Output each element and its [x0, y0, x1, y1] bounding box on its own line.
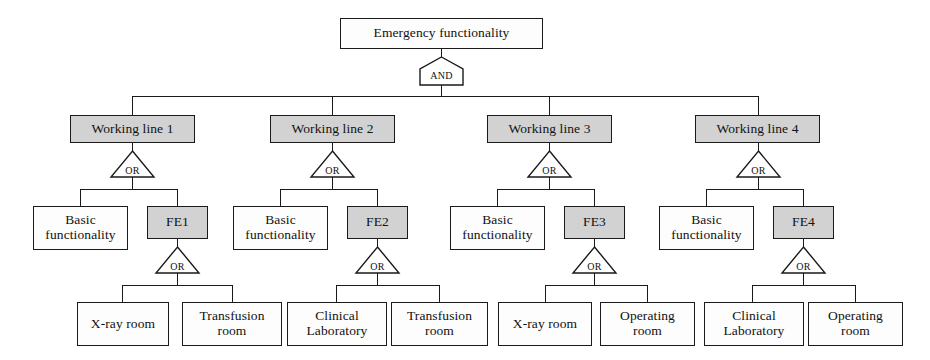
connector-bus2-to-fe2	[377, 189, 378, 207]
connector-fe3-to-or	[594, 239, 595, 247]
leaf-node-clinical-laboratory-2[interactable]: Clinical Laboratory	[287, 302, 387, 346]
root-node-emergency-functionality[interactable]: Emergency functionality	[340, 18, 543, 49]
bus-branch-3	[497, 189, 595, 190]
connector-wl3-to-or	[549, 143, 550, 151]
connector-fe1-to-or	[177, 239, 178, 247]
fault-tree-diagram: Emergency functionality AND Working line…	[0, 0, 930, 360]
connector-bus3-to-fe3	[594, 189, 595, 207]
or-gate-working-line-3[interactable]: OR	[526, 150, 573, 178]
leaf-node-xray-room-3[interactable]: X-ray room	[498, 302, 592, 346]
bus-branch-4	[706, 189, 804, 190]
connector-fe4-to-or	[803, 239, 804, 247]
connector-bus1-to-basic	[80, 189, 81, 207]
basic-functionality-node-2[interactable]: Basic functionality	[233, 206, 328, 250]
leaf-node-clinical-laboratory-4[interactable]: Clinical Laboratory	[704, 302, 804, 346]
basic-functionality-node-1[interactable]: Basic functionality	[33, 206, 128, 250]
connector-bus1-to-fe1	[177, 189, 178, 207]
connector-bus-to-working-line-2	[332, 96, 333, 115]
connector-wl1-to-or	[132, 143, 133, 151]
or-gate-working-line-2[interactable]: OR	[309, 150, 356, 178]
basic-functionality-node-4[interactable]: Basic functionality	[659, 206, 754, 250]
basic-functionality-node-3[interactable]: Basic functionality	[450, 206, 545, 250]
leaf-node-operating-room-4[interactable]: Operating room	[808, 302, 903, 346]
connector-root-to-and	[441, 49, 442, 57]
connector-leaf-3a	[545, 285, 546, 303]
or-gate-working-line-1[interactable]: OR	[109, 150, 156, 178]
connector-leaf-2a	[336, 285, 337, 303]
or-gate-fe3[interactable]: OR	[571, 246, 618, 274]
connector-wl4-to-or	[758, 143, 759, 151]
connector-bus-to-working-line-4	[758, 96, 759, 115]
connector-bus4-to-basic	[706, 189, 707, 207]
connector-leaf-1b	[232, 285, 233, 303]
leaf-node-transfusion-room-2[interactable]: Transfusion room	[391, 302, 488, 346]
bus-fe2-leaves	[336, 285, 440, 286]
connector-fe2-to-or	[377, 239, 378, 247]
bus-fe1-leaves	[122, 285, 233, 286]
connector-leaf-4a	[752, 285, 753, 303]
or-gate-fe1[interactable]: OR	[154, 246, 201, 274]
working-line-2-node[interactable]: Working line 2	[270, 115, 395, 143]
connector-leaf-2b	[439, 285, 440, 303]
connector-bus4-to-fe4	[803, 189, 804, 207]
fe2-node[interactable]: FE2	[347, 206, 408, 239]
connector-bus3-to-basic	[497, 189, 498, 207]
connector-wl2-to-or	[332, 143, 333, 151]
fe3-node[interactable]: FE3	[564, 206, 625, 239]
connector-leaf-3b	[647, 285, 648, 303]
connector-leaf-1a	[122, 285, 123, 303]
bus-branch-1	[80, 189, 178, 190]
working-line-4-node[interactable]: Working line 4	[695, 115, 820, 143]
bus-branch-2	[280, 189, 378, 190]
bus-level1	[132, 96, 759, 97]
connector-leaf-4b	[855, 285, 856, 303]
and-gate-root[interactable]: AND	[418, 56, 465, 86]
leaf-node-xray-room-1[interactable]: X-ray room	[77, 302, 169, 346]
connector-bus-to-working-line-3	[549, 96, 550, 115]
connector-bus-to-working-line-1	[132, 96, 133, 115]
leaf-node-operating-room-3[interactable]: Operating room	[600, 302, 695, 346]
or-gate-fe2[interactable]: OR	[354, 246, 401, 274]
connector-bus2-to-basic	[280, 189, 281, 207]
bus-fe3-leaves	[545, 285, 648, 286]
working-line-1-node[interactable]: Working line 1	[70, 115, 195, 143]
or-gate-fe4[interactable]: OR	[780, 246, 827, 274]
fe1-node[interactable]: FE1	[147, 206, 208, 239]
fe4-node[interactable]: FE4	[773, 206, 834, 239]
leaf-node-transfusion-room-1[interactable]: Transfusion room	[182, 302, 282, 346]
bus-fe4-leaves	[752, 285, 856, 286]
or-gate-working-line-4[interactable]: OR	[735, 150, 782, 178]
working-line-3-node[interactable]: Working line 3	[487, 115, 612, 143]
